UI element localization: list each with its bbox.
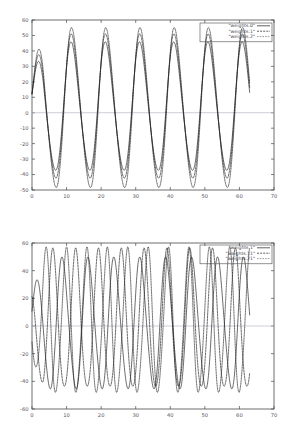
y-tick-label-4: 20 [22,79,29,85]
x-tick-label-7: 70 [271,193,278,199]
x-tick-label-1: 10 [63,193,70,199]
x-tick-label-4: 40 [167,193,174,199]
x-tick-label-7: 70 [271,412,278,418]
x-tick-label-3: 30 [132,193,139,199]
x-tick-label-2: 20 [98,412,105,418]
x-tick-label-0: 0 [30,193,33,199]
y-tick-label-2: 20 [22,295,29,301]
y-tick-label-5: 10 [22,94,29,100]
y-tick-label-0: 60 [22,17,29,23]
y-tick-label-11: -50 [20,187,28,193]
y-tick-label-0: 60 [22,240,29,246]
x-tick-label-4: 40 [167,412,174,418]
bottom-chart: 6040200-20-40-60010203040506070"weights.… [0,221,288,442]
legend-label-1: "weights.1" [229,29,256,34]
y-tick-label-10: -40 [20,171,28,177]
x-tick-label-5: 50 [202,412,209,418]
x-tick-label-6: 60 [236,412,243,418]
y-tick-label-2: 40 [22,48,29,54]
y-tick-label-6: -60 [20,406,28,412]
legend-label-2: "weights.21" [226,256,255,261]
top-chart: 6050403020100-10-20-30-40-50010203040506… [0,0,288,221]
legend-label-0: "weights.0" [229,23,256,28]
y-tick-label-5: -40 [20,378,28,384]
y-tick-label-9: -30 [20,156,28,162]
x-tick-label-3: 30 [132,412,139,418]
top-chart-panel: 6050403020100-10-20-30-40-50010203040506… [0,0,288,221]
x-tick-label-5: 50 [202,193,209,199]
x-tick-label-6: 60 [236,193,243,199]
y-tick-label-7: -10 [20,125,28,131]
y-tick-label-3: 30 [22,63,29,69]
y-tick-label-8: -20 [20,141,28,147]
x-tick-label-1: 10 [63,412,70,418]
legend-label-2: "weights.2" [229,34,256,39]
y-tick-label-3: 0 [25,323,28,329]
y-tick-label-6: 0 [25,110,28,116]
y-tick-label-1: 40 [22,268,29,274]
legend-label-0: "weights.1" [229,245,256,250]
y-tick-label-4: -20 [20,351,28,357]
x-tick-label-0: 0 [30,412,33,418]
x-tick-label-2: 20 [98,193,105,199]
y-tick-label-1: 50 [22,32,29,38]
legend-label-1: "weights.11" [226,251,255,256]
bottom-chart-panel: 6040200-20-40-60010203040506070"weights.… [0,221,288,442]
